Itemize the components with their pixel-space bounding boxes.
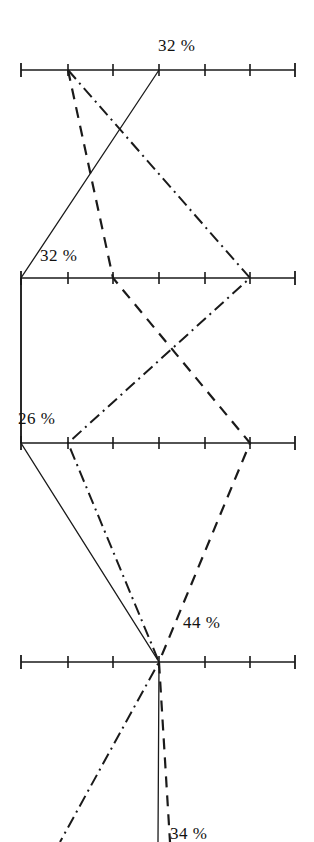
label-32-second: 32 %: [40, 246, 77, 266]
series-group: [21, 70, 250, 842]
axis-2: [21, 271, 295, 285]
axis-3: [21, 436, 295, 450]
axes-group: [21, 63, 295, 669]
label-32-top: 32 %: [158, 36, 195, 56]
series-dashdot: [60, 70, 250, 842]
label-44-fourth: 44 %: [183, 613, 220, 633]
label-34-bottom-clipped: 34 %: [170, 824, 207, 842]
series-solid: [21, 70, 159, 842]
label-26-third: 26 %: [18, 409, 55, 429]
axis-1: [21, 63, 295, 77]
